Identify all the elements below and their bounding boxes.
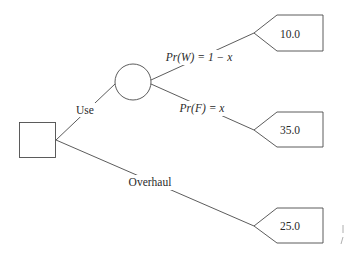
works-probability-label: Pr(W) = 1 − x (165, 51, 234, 64)
decision-node-square (20, 123, 56, 158)
outcome-value: 35.0 (280, 124, 300, 136)
cropped-text-fragment (341, 237, 343, 244)
outcome-value: 25.0 (280, 220, 300, 232)
chance-node-circle (115, 64, 151, 100)
overhaul-branch-label: Overhaul (129, 176, 172, 188)
decision-tree-diagram: 10.0 35.0 25.0 Use Overhaul Pr(W) = 1 − … (0, 0, 345, 264)
outcome-value: 10.0 (280, 28, 300, 40)
terminal-node-works: 10.0 (254, 15, 323, 51)
terminal-node-overhaul: 25.0 (254, 208, 323, 243)
use-branch-label: Use (76, 104, 94, 116)
terminal-node-fails: 35.0 (254, 112, 323, 147)
fails-probability-label: Pr(F) = x (179, 102, 226, 115)
